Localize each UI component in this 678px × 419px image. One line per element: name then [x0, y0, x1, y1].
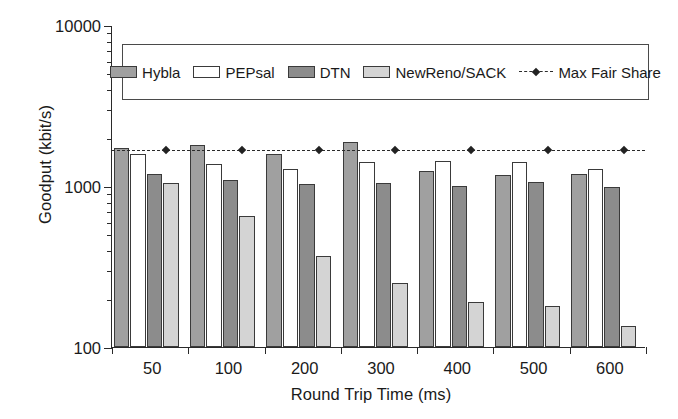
- bar-hybla-100: [190, 145, 206, 347]
- y-axis-minor-tick: [107, 203, 112, 204]
- bar-newreno-sack-50: [163, 183, 179, 347]
- bar-hybla-200: [266, 154, 282, 347]
- y-axis-minor-tick: [107, 110, 112, 111]
- bar-newreno-sack-400: [468, 302, 484, 347]
- x-axis-tick-label: 200: [291, 359, 319, 378]
- bar-dtn-100: [223, 180, 239, 347]
- bar-pepsal-50: [130, 154, 146, 347]
- x-axis-tick: [417, 347, 418, 354]
- bar-pepsal-500: [512, 162, 528, 347]
- x-axis-tick-label: 100: [215, 359, 243, 378]
- x-axis-tick-label: 400: [444, 359, 472, 378]
- y-axis-minor-tick: [107, 51, 112, 52]
- bar-newreno-sack-300: [392, 283, 408, 347]
- legend-item-hybla[interactable]: Hybla: [110, 64, 180, 81]
- x-axis-tick: [341, 347, 342, 354]
- bar-newreno-sack-200: [316, 256, 332, 347]
- y-axis-minor-tick: [107, 42, 112, 43]
- y-axis-tick-label: 1000: [64, 179, 101, 196]
- legend-item-pepsal[interactable]: PEPsal: [193, 64, 274, 81]
- y-axis-minor-tick: [107, 251, 112, 252]
- bar-pepsal-100: [206, 164, 222, 347]
- max-fair-share-marker: [314, 146, 322, 154]
- max-fair-share-marker: [238, 146, 246, 154]
- x-axis-tick-label: 300: [367, 359, 395, 378]
- y-axis-minor-tick: [107, 194, 112, 195]
- bar-pepsal-300: [359, 162, 375, 347]
- bar-dtn-50: [147, 174, 163, 347]
- legend-label: Hybla: [140, 64, 180, 81]
- bar-hybla-50: [114, 148, 130, 347]
- x-axis-tick: [570, 347, 571, 354]
- legend-item-newreno-sack[interactable]: NewReno/SACK: [363, 64, 506, 81]
- legend-swatch-icon: [288, 66, 315, 78]
- max-fair-share-line: [112, 150, 645, 151]
- bar-hybla-400: [419, 171, 435, 347]
- max-fair-share-marker: [620, 146, 628, 154]
- bar-newreno-sack-100: [239, 216, 255, 347]
- chart-legend: HyblaPEPsalDTNNewReno/SACKMax Fair Share: [122, 44, 649, 100]
- bar-pepsal-200: [283, 169, 299, 347]
- bar-newreno-sack-600: [621, 326, 637, 347]
- bar-hybla-500: [495, 175, 511, 347]
- x-axis-title: Round Trip Time (ms): [96, 385, 646, 404]
- bar-pepsal-400: [435, 161, 451, 347]
- bar-dtn-600: [604, 187, 620, 347]
- legend-swatch-icon: [110, 66, 137, 78]
- legend-label: PEPsal: [223, 64, 274, 81]
- x-axis-tick: [493, 347, 494, 354]
- x-axis-tick-label: 600: [596, 359, 624, 378]
- max-fair-share-marker: [543, 146, 551, 154]
- y-axis-tick: [104, 348, 112, 349]
- max-fair-share-marker: [467, 146, 475, 154]
- legend-swatch-icon: [363, 66, 390, 78]
- y-axis-minor-tick: [107, 212, 112, 213]
- x-axis-tick: [265, 347, 266, 354]
- legend-item-dtn[interactable]: DTN: [288, 64, 351, 81]
- bar-dtn-200: [299, 184, 315, 347]
- legend-label: Max Fair Share: [556, 64, 661, 81]
- bar-hybla-600: [571, 174, 587, 347]
- y-axis-tick: [104, 26, 112, 27]
- bar-dtn-300: [376, 183, 392, 347]
- y-axis-title: Goodput (kbit/s): [36, 35, 55, 295]
- y-axis-minor-tick: [107, 300, 112, 301]
- bar-newreno-sack-500: [545, 306, 561, 347]
- bar-pepsal-600: [588, 169, 604, 347]
- legend-swatch-icon: [193, 66, 220, 78]
- x-axis-tick: [188, 347, 189, 354]
- y-axis-tick: [104, 187, 112, 188]
- legend-dashed-line-icon: [519, 67, 553, 77]
- y-axis-minor-tick: [107, 90, 112, 91]
- bar-dtn-400: [452, 186, 468, 347]
- y-axis-minor-tick: [107, 223, 112, 224]
- x-axis-tick: [646, 347, 647, 354]
- legend-label: DTN: [318, 64, 351, 81]
- legend-label: NewReno/SACK: [393, 64, 506, 81]
- x-axis-tick-label: 500: [520, 359, 548, 378]
- y-axis-minor-tick: [107, 33, 112, 34]
- y-axis-tick-label: 100: [73, 340, 101, 357]
- y-axis-tick-label: 10000: [55, 18, 101, 35]
- legend-item-max-fair-share[interactable]: Max Fair Share: [519, 64, 661, 81]
- y-axis-minor-tick: [107, 235, 112, 236]
- max-fair-share-marker: [162, 146, 170, 154]
- x-axis-tick: [112, 347, 113, 354]
- bar-hybla-300: [343, 142, 359, 347]
- x-axis-tick-label: 50: [143, 359, 161, 378]
- chart-figure: Goodput (kbit/s) Round Trip Time (ms) 10…: [0, 0, 678, 419]
- y-axis-minor-tick: [107, 139, 112, 140]
- bar-dtn-500: [528, 182, 544, 347]
- y-axis-minor-tick: [107, 271, 112, 272]
- max-fair-share-marker: [391, 146, 399, 154]
